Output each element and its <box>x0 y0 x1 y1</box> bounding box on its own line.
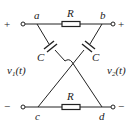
node-b-label: b <box>100 9 106 21</box>
right-capacitor-label: C <box>92 51 100 63</box>
input-voltage-label: v1(t) <box>7 64 26 78</box>
output-plus-sign: + <box>118 18 124 30</box>
wire-cross-to-d <box>72 62 102 107</box>
input-minus-terminal <box>21 105 25 109</box>
input-minus-sign: − <box>4 100 10 112</box>
circuit-diagram: + + − − a b c d R R C C v1(t) v2(t) <box>0 0 134 124</box>
node-d-label: d <box>99 110 105 122</box>
output-plus-terminal <box>111 22 115 26</box>
left-capacitor-label: C <box>37 51 45 63</box>
wire-b-to-cap <box>90 24 102 44</box>
output-minus-terminal <box>111 105 115 109</box>
node-a-label: a <box>34 9 40 21</box>
node-c-label: c <box>35 110 40 122</box>
bottom-resistor <box>62 105 80 110</box>
input-plus-sign: + <box>4 18 10 30</box>
input-plus-terminal <box>21 22 25 26</box>
wire-cap-to-cross <box>55 50 65 61</box>
wire-a-to-cap <box>37 24 49 44</box>
bottom-resistor-label: R <box>66 90 74 102</box>
crossover-hop <box>65 60 72 62</box>
top-resistor-label: R <box>66 7 74 19</box>
top-resistor <box>62 22 80 27</box>
wire-cap-to-c <box>38 50 84 107</box>
output-voltage-label: v2(t) <box>107 64 126 78</box>
output-minus-sign: − <box>118 100 124 112</box>
